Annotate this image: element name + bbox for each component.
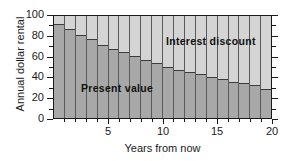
bar-segment-present-value (207, 77, 217, 118)
x-tick-minor (239, 119, 240, 122)
x-tick-minor (97, 119, 98, 122)
y-tick-major (47, 57, 53, 58)
y-tick-major (47, 77, 53, 78)
bar-column (250, 16, 261, 118)
bar-column (141, 16, 152, 118)
bar-column (54, 16, 65, 118)
x-tick-minor (75, 119, 76, 122)
x-tick-major (217, 119, 218, 124)
bar-column (229, 16, 240, 118)
x-tick-minor (152, 119, 153, 122)
bar-segment-present-value (87, 39, 97, 118)
bar-segment-present-value (76, 35, 86, 118)
bar-column (65, 16, 76, 118)
bar-segment-present-value (54, 24, 64, 118)
y-tick-label: 0 (4, 113, 44, 124)
x-tick-label: 10 (148, 126, 178, 137)
bar-segment-present-value (261, 89, 271, 118)
y-tick-minor (272, 46, 276, 47)
bar-segment-present-value (65, 29, 75, 118)
bar-column (218, 16, 229, 118)
bar-segment-present-value (250, 85, 260, 118)
y-tick-label: 20 (4, 92, 44, 103)
bar-segment-present-value (229, 82, 239, 118)
bar-column (152, 16, 163, 118)
y-tick-minor (49, 46, 53, 47)
x-axis-title: Years from now (53, 142, 272, 154)
y-tick-minor (49, 25, 53, 26)
bar-column (239, 16, 250, 118)
x-tick-minor (119, 119, 120, 122)
bar-column (185, 16, 196, 118)
bar-column (87, 16, 98, 118)
bar-segment-present-value (163, 67, 173, 118)
y-tick-minor (49, 88, 53, 89)
bar-segment-present-value (152, 63, 162, 118)
x-tick-minor (141, 119, 142, 122)
bar-column (174, 16, 185, 118)
bar-column (163, 16, 174, 118)
bar-column (207, 16, 218, 118)
x-tick-minor (250, 119, 251, 122)
x-tick-label: 5 (93, 126, 123, 137)
x-tick-label: 20 (257, 126, 287, 137)
y-tick-minor (49, 67, 53, 68)
y-tick-major (272, 15, 278, 16)
bar-column (196, 16, 207, 118)
bar-column (109, 16, 120, 118)
y-tick-minor (49, 109, 53, 110)
x-tick-minor (130, 119, 131, 122)
x-tick-minor (173, 119, 174, 122)
x-tick-major (163, 119, 164, 124)
chart-figure: Annual dollar rental Interest discount P… (0, 0, 292, 161)
y-tick-label: 100 (4, 9, 44, 20)
y-tick-major (47, 36, 53, 37)
annotation-interest-discount: Interest discount (166, 35, 256, 47)
y-tick-minor (272, 25, 276, 26)
y-tick-major (272, 36, 278, 37)
y-tick-label: 80 (4, 30, 44, 41)
bar-segment-present-value (174, 70, 184, 118)
x-tick-label: 15 (202, 126, 232, 137)
y-tick-major (272, 57, 278, 58)
x-tick-minor (64, 119, 65, 122)
bar-column (119, 16, 130, 118)
x-tick-major (272, 119, 273, 124)
bar-segment-present-value (185, 72, 195, 118)
x-tick-minor (261, 119, 262, 122)
plot-area: Interest discount Present value (53, 15, 272, 119)
y-tick-major (272, 77, 278, 78)
annotation-present-value: Present value (81, 82, 153, 94)
bar-segment-present-value (239, 83, 249, 118)
y-tick-label: 40 (4, 71, 44, 82)
bar-segment-present-value (196, 74, 206, 118)
x-tick-minor (228, 119, 229, 122)
bar-column (261, 16, 271, 118)
y-tick-minor (272, 88, 276, 89)
bar-column (98, 16, 109, 118)
bar-column (76, 16, 87, 118)
x-tick-minor (86, 119, 87, 122)
y-tick-major (272, 98, 278, 99)
x-tick-minor (206, 119, 207, 122)
y-tick-minor (272, 109, 276, 110)
y-tick-minor (272, 67, 276, 68)
x-tick-minor (195, 119, 196, 122)
bar-column (130, 16, 141, 118)
bar-segment-present-value (218, 79, 228, 118)
y-tick-major (47, 98, 53, 99)
x-tick-major (108, 119, 109, 124)
x-tick-minor (184, 119, 185, 122)
y-tick-major (47, 15, 53, 16)
y-tick-major (47, 119, 53, 120)
stacked-bar-series (54, 16, 271, 118)
y-tick-label: 60 (4, 51, 44, 62)
